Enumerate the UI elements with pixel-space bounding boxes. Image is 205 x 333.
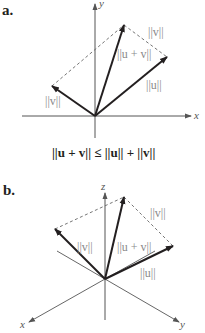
figure-a-axes [22,4,191,138]
figure-a-norm-u-plus-v: ||u + v|| [117,47,151,62]
figure-b-y-axis-label: y [180,318,185,330]
vector-u-plus-v [95,25,124,116]
figure-b-label: b. [3,182,15,199]
figure-a-caption: ||u + v|| ≤ ||u|| + ||v|| [52,145,155,161]
figure-a-x-axis-label: x [194,109,199,121]
figure-a-y-axis-label: y [99,0,104,9]
figure-b-norm-u: ||u|| [140,266,156,281]
figure-a-norm-u: ||u|| [146,78,162,93]
figure-b-norm-v: ||v|| [77,240,93,255]
figure-b-z-axis-label: z [101,180,105,192]
vector-u-plus-v-3d [105,197,124,279]
figure-a-norm-v: ||v|| [45,94,61,109]
figure-b-norm-u-plus-v: ||u + v|| [117,240,151,255]
vector-diagram [0,0,205,333]
y-axis-3d [105,279,179,322]
figure-a-norm-v-translated: ||v|| [148,25,164,40]
figure-b-x-axis-label: x [20,318,25,330]
figure-b-norm-v-translated: ||v|| [150,206,166,221]
x-axis-3d [29,279,105,322]
